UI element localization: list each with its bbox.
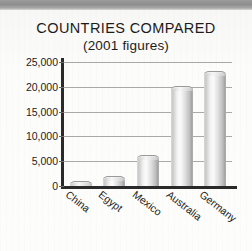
x-axis-label-china: China (63, 188, 92, 214)
x-axis-label-mexico: Mexico (131, 188, 165, 218)
chart-page: COUNTRIES COMPARED (2001 figures) 05,000… (0, 0, 252, 251)
y-axis-tick-label: 25,000 (26, 56, 58, 68)
chart-subtitle: (2001 figures) (0, 37, 252, 54)
y-axis-tick (59, 136, 64, 137)
y-axis-tick (59, 62, 64, 63)
x-axis-label-germany: Germany (198, 188, 239, 224)
bar-top-cap (137, 156, 159, 160)
bar-china (70, 181, 92, 186)
y-axis-tick (59, 112, 64, 113)
y-axis-tick-label: 10,000 (26, 130, 58, 142)
x-axis-label-egypt: Egypt (97, 188, 126, 214)
x-axis-labels: ChinaEgyptMexicoAustraliaGermany (0, 188, 252, 251)
y-axis-tick-label: 20,000 (26, 81, 58, 93)
bar-mexico (137, 155, 159, 186)
bar-australia (171, 86, 193, 186)
bar-top-cap (171, 87, 193, 91)
y-axis-labels: 05,00010,00015,00020,00025,000 (0, 62, 58, 186)
y-axis-tick (59, 87, 64, 88)
y-axis-tick-label: 5,000 (32, 155, 58, 167)
bar-top-cap (103, 177, 125, 181)
chart-title-block: COUNTRIES COMPARED (2001 figures) (0, 20, 252, 54)
scan-edge-band (0, 0, 252, 10)
y-axis-tick (59, 161, 64, 162)
gridline (64, 62, 232, 63)
bar-top-cap (70, 182, 92, 186)
y-axis-tick (59, 186, 64, 187)
bar-egypt (103, 176, 125, 186)
plot-area (64, 62, 232, 186)
page-title: COUNTRIES COMPARED (0, 20, 252, 37)
bar-germany (204, 71, 226, 186)
y-axis-tick-label: 15,000 (26, 106, 58, 118)
bar-top-cap (204, 72, 226, 76)
x-axis-label-australia: Australia (164, 188, 204, 223)
